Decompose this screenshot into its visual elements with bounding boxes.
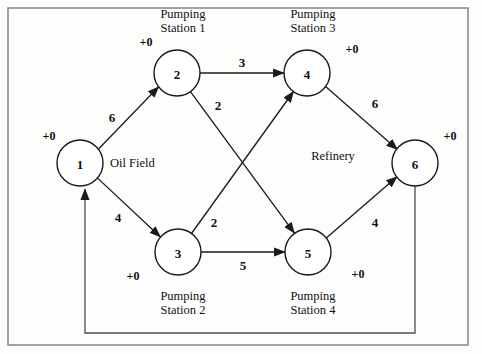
oil-field-name-label: Oil Field bbox=[110, 156, 156, 170]
edge-4-to-6 bbox=[326, 87, 398, 150]
node-6-label: 6 bbox=[412, 157, 419, 172]
node-5-label: 5 bbox=[305, 246, 312, 261]
node-6-supply: +0 bbox=[444, 129, 457, 143]
node-2-name-line2: Station 1 bbox=[161, 21, 206, 35]
edge-weight-3-5: 5 bbox=[240, 258, 247, 273]
node-group: 1 +0 Oil Field 2 +0 Pumping Station 1 3 … bbox=[43, 7, 457, 317]
node-3-label: 3 bbox=[175, 246, 182, 261]
edge-1-to-3 bbox=[98, 178, 161, 237]
node-3-supply: +0 bbox=[127, 269, 140, 283]
edge-weight-4-6: 6 bbox=[372, 96, 379, 111]
edge-6-to-1-feedback bbox=[85, 186, 415, 333]
node-4-name-line2: Station 3 bbox=[291, 21, 336, 35]
edge-weight-1-2: 6 bbox=[109, 110, 116, 125]
diagram-canvas: 6 4 3 2 2 5 6 4 1 +0 Oil Field 2 +0 Pump… bbox=[0, 0, 482, 354]
node-1-label: 1 bbox=[77, 157, 84, 172]
refinery-name-label: Refinery bbox=[311, 149, 355, 163]
node-5-name-line2: Station 4 bbox=[291, 303, 337, 317]
network-flow-diagram: 6 4 3 2 2 5 6 4 1 +0 Oil Field 2 +0 Pump… bbox=[0, 0, 482, 354]
node-5-name-line1: Pumping bbox=[290, 289, 336, 303]
node-2-supply: +0 bbox=[140, 35, 153, 49]
edge-weight-2-5: 2 bbox=[215, 98, 222, 113]
edge-weight-5-6: 4 bbox=[372, 215, 379, 230]
node-2-label: 2 bbox=[174, 67, 181, 82]
node-4-label: 4 bbox=[304, 67, 311, 82]
node-4-name-line1: Pumping bbox=[290, 7, 336, 21]
node-1-supply: +0 bbox=[43, 129, 56, 143]
node-4-supply: +0 bbox=[346, 42, 359, 56]
edge-weight-1-3: 4 bbox=[115, 210, 122, 225]
node-2-name-line1: Pumping bbox=[160, 7, 206, 21]
node-3-name-line2: Station 2 bbox=[161, 303, 206, 317]
node-5-supply: +0 bbox=[352, 267, 365, 281]
edge-weight-2-4: 3 bbox=[239, 55, 246, 70]
edge-1-to-2 bbox=[98, 87, 158, 150]
edge-5-to-6 bbox=[326, 177, 397, 239]
edge-group bbox=[85, 73, 415, 333]
edge-weight-3-4: 2 bbox=[211, 215, 218, 230]
node-3-name-line1: Pumping bbox=[160, 289, 206, 303]
